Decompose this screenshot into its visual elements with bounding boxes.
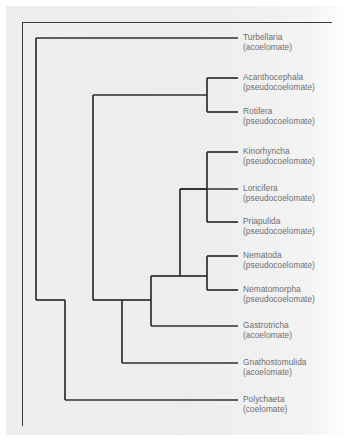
taxon-body-plan: (acoelomate) [243,331,292,341]
taxon-label-rotifera: Rotifera (pseudocoelomate) [243,107,315,126]
taxon-label-nematoda: Nematoda (pseudocoelomate) [243,251,315,270]
taxon-label-gnathostomulida: Gnathostomulida (acoelomate) [243,358,306,377]
taxon-label-nematomorpha: Nematomorpha (pseudocoelomate) [243,285,315,304]
taxon-label-gastrotricha: Gastrotricha (acoelomate) [243,321,292,340]
cladogram-figure: Turbellaria (acoelomate) Acanthocephala … [0,0,362,441]
taxon-body-plan: (pseudocoelomate) [243,157,315,167]
taxon-body-plan: (acoelomate) [243,43,292,53]
taxon-label-priapulida: Priapulida (pseudocoelomate) [243,217,315,236]
taxon-label-polychaeta: Polychaeta (coelomate) [243,395,287,414]
taxon-body-plan: (coelomate) [243,405,287,415]
taxon-body-plan: (acoelomate) [243,368,306,378]
taxon-body-plan: (pseudocoelomate) [243,227,315,237]
taxon-body-plan: (pseudocoelomate) [243,83,315,93]
taxon-body-plan: (pseudocoelomate) [243,194,315,204]
taxon-label-layer: Turbellaria (acoelomate) Acanthocephala … [0,0,362,441]
taxon-label-turbellaria: Turbellaria (acoelomate) [243,33,292,52]
taxon-label-loricifera: Loricifera (pseudocoelomate) [243,184,315,203]
taxon-body-plan: (pseudocoelomate) [243,117,315,127]
taxon-label-acanthocephala: Acanthocephala (pseudocoelomate) [243,73,315,92]
taxon-body-plan: (pseudocoelomate) [243,261,315,271]
taxon-label-kinorhyncha: Kinorhyncha (pseudocoelomate) [243,147,315,166]
taxon-body-plan: (pseudocoelomate) [243,295,315,305]
